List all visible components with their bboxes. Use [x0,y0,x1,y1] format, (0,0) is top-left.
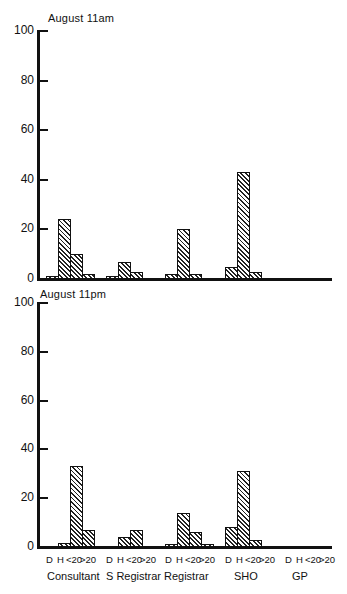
slot-label: D [225,554,232,565]
y-tick [38,302,48,304]
y-tick-label: 20 [0,490,34,504]
slot-label: H [176,554,183,565]
slot-label: H [57,554,64,565]
bar-registrar->20 [201,544,214,547]
group-label: SHO [234,570,258,582]
slot-label: >20 [80,554,96,565]
group-label: Consultant [47,570,100,582]
y-tick [38,400,48,402]
slot-label: >20 [319,554,335,565]
slot-label: D [106,554,113,565]
y-tick [38,351,48,353]
slot-label: H [296,554,303,565]
slot-label: >20 [140,554,156,565]
slot-label: H [117,554,124,565]
panel-title: August 11pm [40,288,106,300]
bar-sho-<20 [249,540,262,547]
bar-sho-H [237,471,250,547]
y-tick [38,497,48,499]
y-tick-label: 100 [0,295,34,309]
y-axis [37,302,40,549]
y-tick-label: 40 [0,441,34,455]
y-tick-label: 60 [0,393,34,407]
slot-label: H [236,554,243,565]
y-tick [38,448,48,450]
y-tick-label: 0 [0,539,34,553]
slot-label: D [165,554,172,565]
x-axis-labels: DH<20>20ConsultantDH<20>20S RegistrarDH<… [0,554,347,594]
group-label: Registrar [164,570,209,582]
chart-panel-11pm: August 11pm 020406080100 [0,0,347,594]
y-tick-label: 80 [0,344,34,358]
slot-label: D [285,554,292,565]
bar-consultant->20 [82,530,95,547]
slot-label: D [46,554,53,565]
bar-s-registrar-<20 [130,530,143,547]
group-label: S Registrar [106,570,161,582]
group-label: GP [292,570,308,582]
slot-label: >20 [199,554,215,565]
slot-label: >20 [259,554,275,565]
